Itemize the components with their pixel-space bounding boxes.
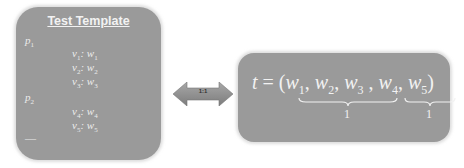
test-template-panel: Test Template p1 v1: w1 v2: w2 v3: w3 p2… — [16, 7, 161, 160]
v4-w4-pair: v4: w4 — [72, 105, 98, 120]
formula-panel: t = (w1, w2, w3 , w4, w5) 1 1 — [238, 53, 450, 142]
group-1-count: 1 — [344, 107, 350, 122]
group-2-count: 1 — [426, 107, 432, 122]
v1-w1-pair: v1: w1 — [72, 47, 98, 62]
template-title: Test Template — [16, 14, 161, 28]
v5-w5-pair: v5: w5 — [72, 119, 98, 134]
v3-w3-pair: v3: w3 — [72, 75, 98, 90]
double-arrow-icon — [173, 82, 233, 106]
p1-label: p1 — [25, 34, 34, 49]
v2-w2-pair: v2: w2 — [72, 61, 98, 76]
underbrace-group-1 — [298, 97, 398, 107]
underbrace-group-2 — [404, 97, 456, 107]
tuple-formula: t = (w1, w2, w3 , w4, w5) — [252, 71, 434, 98]
ratio-label: 1:1 — [173, 88, 233, 94]
p2-label: p2 — [25, 91, 34, 106]
ellipsis-dash: — — [25, 132, 36, 144]
